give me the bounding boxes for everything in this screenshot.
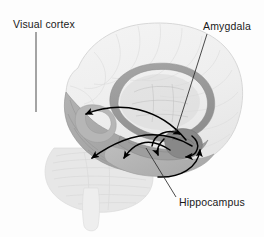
brain-diagram-svg: Visual cortex Amygdala Hippocampus	[0, 0, 264, 237]
label-hippocampus: Hippocampus	[179, 196, 245, 208]
label-amygdala: Amygdala	[203, 20, 251, 32]
brainstem	[83, 188, 100, 231]
brain-pathway-figure: Visual cortex Amygdala Hippocampus	[0, 0, 264, 237]
label-visual-cortex: Visual cortex	[13, 18, 75, 30]
